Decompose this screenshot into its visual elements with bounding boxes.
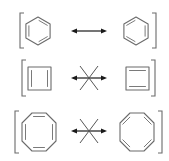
resonance-arrow [71,29,107,34]
cyclobutadiene-structure-right [126,67,149,90]
row-cyclooctatetraene [15,111,162,153]
crossed-resonance-arrow [71,119,107,143]
benzene-structure-left [26,17,50,45]
cyclooctatetraene-structure-right [120,113,154,151]
right-bracket [152,13,156,48]
row-benzene [20,13,156,48]
left-bracket [22,60,26,96]
crossed-resonance-arrow [71,66,107,90]
left-bracket [15,111,19,153]
cyclooctatetraene-structure-left [22,113,56,151]
row-cyclobutadiene [22,60,155,96]
resonance-diagram: Resonance structures of cyclic conjugate… [0,0,169,161]
benzene-structure-right [124,17,148,45]
cyclobutadiene-structure-left [28,67,51,90]
right-bracket [151,60,155,96]
left-bracket [20,13,24,48]
right-bracket [158,111,162,153]
